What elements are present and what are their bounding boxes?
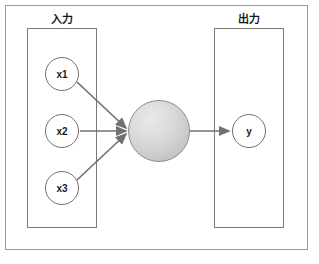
input-node-x2: x2 xyxy=(45,114,79,148)
output-node-y-label: y xyxy=(246,126,252,137)
neural-network-diagram: 入力 出力 x1 x2 x3 y xyxy=(0,0,319,264)
output-layer-label: 出力 xyxy=(204,12,294,26)
output-node-y: y xyxy=(232,114,266,148)
input-node-x2-label: x2 xyxy=(56,126,67,137)
input-layer-label: 入力 xyxy=(17,12,107,26)
input-node-x1: x1 xyxy=(45,57,79,91)
input-node-x3: x3 xyxy=(45,171,79,205)
hidden-neuron-node xyxy=(128,100,190,162)
input-node-x1-label: x1 xyxy=(56,69,67,80)
input-node-x3-label: x3 xyxy=(56,183,67,194)
